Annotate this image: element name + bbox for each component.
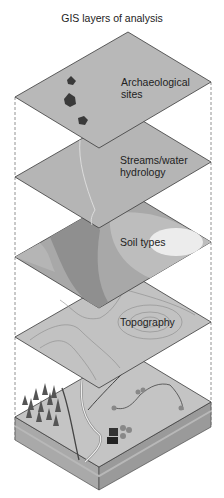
label-topography: Topography: [120, 316, 175, 328]
label-soil-types: Soil types: [120, 236, 166, 248]
label-line-1: Streams/water: [120, 154, 188, 166]
label-archaeological-sites: Archaeological sites: [121, 76, 190, 100]
gis-layers-diagram: [0, 0, 224, 498]
label-line-2: sites: [121, 88, 190, 100]
label-line-1: Topography: [120, 316, 175, 328]
label-line-2: hydrology: [120, 166, 188, 178]
diagram-title: GIS layers of analysis: [0, 12, 224, 24]
label-streams-hydrology: Streams/water hydrology: [120, 154, 188, 178]
label-line-1: Archaeological: [121, 76, 190, 88]
label-line-1: Soil types: [120, 236, 166, 248]
